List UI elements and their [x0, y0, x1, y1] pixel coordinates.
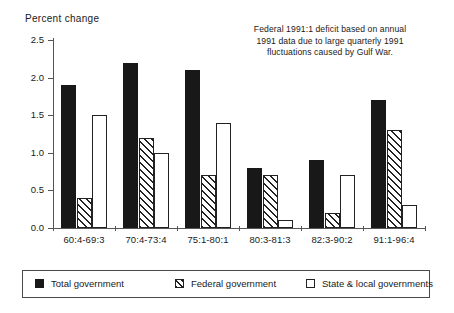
bar-state-local-governments: [278, 220, 293, 228]
bar-state-local-governments: [340, 175, 355, 228]
bar-federal-government: [263, 175, 278, 228]
bar-state-local-governments: [92, 115, 107, 228]
x-axis-tick-label: 80:3-81:3: [235, 234, 305, 245]
y-axis-tick-label: 0.0: [18, 222, 44, 233]
legend-swatch-total-government-icon: [35, 279, 44, 288]
bar-total-government: [185, 70, 200, 228]
legend-label-state-local-governments: State & local governments: [322, 278, 433, 289]
x-axis-tick: [425, 226, 426, 231]
annotation-line-1: Federal 1991:1 deficit based on annual: [236, 24, 424, 36]
y-axis-tick-label: 1.5: [18, 109, 44, 120]
legend-item-total-government[interactable]: Total government: [35, 278, 124, 289]
y-axis-tick-label: 2.0: [18, 72, 44, 83]
bar-federal-government: [387, 130, 402, 228]
x-axis-tick-label: 60:4-69:3: [49, 234, 119, 245]
y-axis-title: Percent change: [25, 13, 99, 24]
bar-federal-government: [139, 138, 154, 228]
x-axis-tick-label: 75:1-80:1: [173, 234, 243, 245]
x-axis-tick-label: 91:1-96:4: [359, 234, 429, 245]
legend-label-federal-government: Federal government: [191, 278, 276, 289]
legend-swatch-federal-government-icon: [175, 279, 184, 288]
bar-chart: Percent change Federal 1991:1 deficit ba…: [0, 0, 454, 313]
chart-legend: Total government Federal government Stat…: [22, 270, 430, 298]
bar-state-local-governments: [216, 123, 231, 228]
bar-total-government: [123, 63, 138, 228]
x-axis-tick-label: 82:3-90:2: [297, 234, 367, 245]
bar-state-local-governments: [154, 153, 169, 228]
y-axis-tick-label: 2.5: [18, 34, 44, 45]
bar-federal-government: [325, 213, 340, 228]
legend-label-total-government: Total government: [51, 278, 124, 289]
legend-item-federal-government[interactable]: Federal government: [175, 278, 276, 289]
x-axis-tick-label: 70:4-73:4: [111, 234, 181, 245]
y-axis-tick-label: 1.0: [18, 147, 44, 158]
bar-federal-government: [201, 175, 216, 228]
bar-federal-government: [77, 198, 92, 228]
bar-total-government: [371, 100, 386, 228]
bar-total-government: [247, 168, 262, 228]
bar-total-government: [61, 85, 76, 228]
y-axis-tick-label: 0.5: [18, 184, 44, 195]
legend-swatch-state-local-governments-icon: [306, 279, 315, 288]
legend-item-state-local-governments[interactable]: State & local governments: [306, 278, 433, 289]
plot-area: [53, 40, 425, 228]
bar-state-local-governments: [402, 205, 417, 228]
bar-total-government: [309, 160, 324, 228]
